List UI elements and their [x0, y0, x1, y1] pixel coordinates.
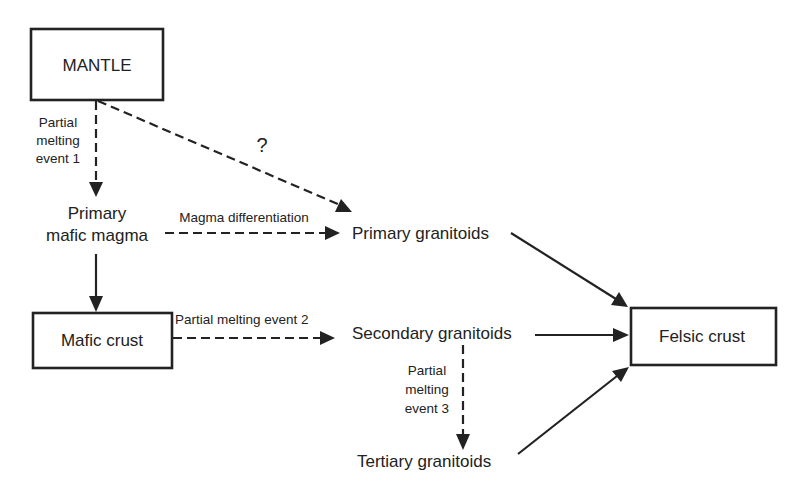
arrowhead-right-icon	[325, 226, 340, 240]
edge-tertiary-to-felsic	[518, 367, 629, 454]
arrowhead-right-icon	[613, 328, 629, 342]
edge-partial-melting-event-1: Partial melting event 1	[36, 101, 103, 197]
differentiation-label: Magma differentiation	[179, 210, 309, 225]
edge-partial-melting-event-3: Partial melting event 3	[405, 345, 470, 450]
primary-granitoids-label: Primary granitoids	[352, 224, 489, 243]
pme2-label: Partial melting event 2	[175, 312, 309, 327]
felsic-crust-label: Felsic crust	[659, 327, 745, 346]
node-felsic-crust: Felsic crust	[631, 308, 776, 365]
arrowhead-diagonal-icon	[611, 292, 628, 307]
arrowhead-diagonal-icon	[335, 199, 352, 212]
pme1-label-line1: Partial	[39, 115, 77, 130]
edge-uncertain-mantle-to-primary-granitoids: ?	[98, 101, 352, 212]
node-mafic-crust: Mafic crust	[33, 313, 172, 368]
node-secondary-granitoids: Secondary granitoids	[352, 324, 512, 343]
node-mantle: MANTLE	[31, 29, 163, 100]
pme1-label-line3: event 1	[36, 151, 80, 166]
mantle-label: MANTLE	[63, 56, 132, 75]
edge-secondary-to-felsic	[535, 328, 629, 342]
uncertain-label: ?	[256, 134, 267, 156]
crust-evolution-diagram: MANTLE Primary mafic magma Mafic crust P…	[0, 0, 801, 496]
tertiary-granitoids-label: Tertiary granitoids	[357, 452, 491, 471]
arrowhead-down-icon	[89, 182, 103, 197]
node-primary-granitoids: Primary granitoids	[352, 224, 489, 243]
node-primary-mafic-magma: Primary mafic magma	[46, 204, 149, 245]
node-tertiary-granitoids: Tertiary granitoids	[357, 452, 491, 471]
edge-magma-differentiation: Magma differentiation	[165, 210, 340, 240]
edge-magma-to-mafic-crust	[89, 254, 103, 312]
edge-primary-to-felsic	[511, 233, 628, 307]
arrowhead-diagonal-icon	[612, 367, 629, 382]
pme1-label-line2: melting	[36, 133, 80, 148]
primary-mafic-magma-label-line2: mafic magma	[46, 226, 149, 245]
arrowhead-down-icon	[89, 296, 103, 312]
edge-partial-melting-event-2: Partial melting event 2	[173, 312, 335, 345]
secondary-granitoids-label: Secondary granitoids	[352, 324, 512, 343]
primary-mafic-magma-label-line1: Primary	[68, 204, 127, 223]
arrowhead-down-icon	[456, 434, 470, 450]
mafic-crust-label: Mafic crust	[61, 331, 143, 350]
arrowhead-right-icon	[320, 331, 335, 345]
pme3-label-line2: melting	[405, 382, 449, 397]
pme3-label-line1: Partial	[408, 363, 446, 378]
pme3-label-line3: event 3	[405, 401, 449, 416]
